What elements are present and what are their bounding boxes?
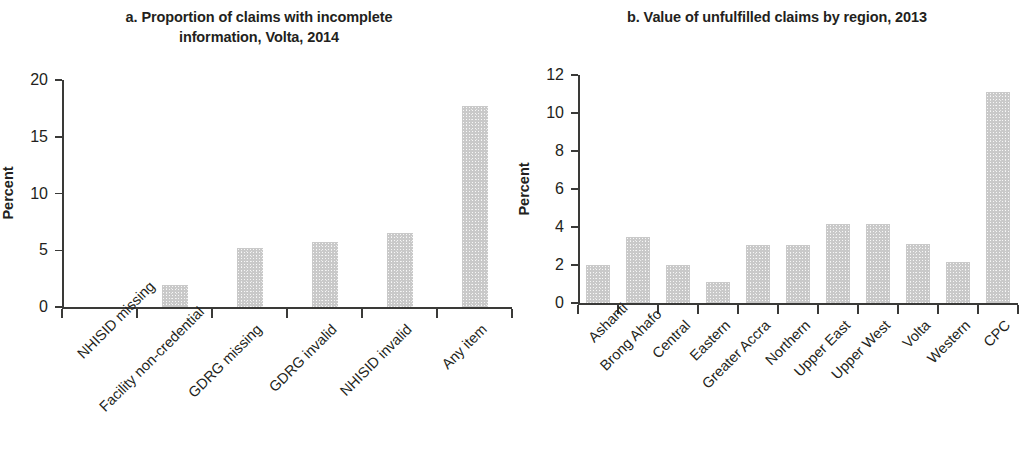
bar-upper-east [826, 224, 850, 303]
bar-upper-west [866, 224, 890, 303]
panel-b-x-tick [817, 305, 819, 314]
panel-b-y-tick-label: 12 [524, 66, 564, 84]
bar-nhisid-invalid [387, 233, 413, 307]
bar-brong-ahafo [626, 237, 650, 304]
bar-central [666, 265, 690, 303]
panel-b-y-tick [571, 112, 578, 114]
bar-gdrg-invalid [312, 242, 338, 307]
panel-a-x-tick [511, 309, 513, 318]
panel-b-y-tick [571, 74, 578, 76]
panel-a-x-tick [286, 309, 288, 318]
bar-gdrg-missing [237, 248, 263, 307]
x-tick-label-nhisid-missing: NHISID missing [74, 321, 115, 362]
panel-b-title: b. Value of unfulfilled claims by region… [518, 8, 1036, 28]
panel-b-x-tick [977, 305, 979, 314]
panel-b-y-tick-label: 4 [524, 218, 564, 236]
panel-a-title: a. Proportion of claims with incomplete … [0, 8, 518, 47]
chart-panel-b: b. Value of unfulfilled claims by region… [518, 0, 1036, 456]
panel-b-x-tick [897, 305, 899, 314]
panel-a-y-axis-line [62, 80, 64, 307]
panel-a-y-tick [55, 79, 62, 81]
panel-a-y-axis-title: Percent [0, 166, 16, 219]
bar-northern [786, 245, 810, 303]
panel-a-y-tick-label: 20 [8, 71, 48, 89]
x-tick-label-gdrg-missing: GDRG missing [118, 321, 265, 456]
panel-a-title-line1: a. Proportion of claims with incomplete [0, 8, 518, 28]
panel-b-y-tick-label: 8 [524, 142, 564, 160]
panel-b-y-tick [571, 150, 578, 152]
panel-b-x-tick [1017, 305, 1019, 314]
panel-b-x-tick [697, 305, 699, 314]
bar-greater-accra [746, 245, 770, 303]
panel-b-y-tick-label: 2 [524, 256, 564, 274]
panel-a-x-tick [211, 309, 213, 318]
bar-western [946, 262, 970, 303]
panel-a-y-tick-label: 0 [8, 298, 48, 316]
panel-b-y-tick [571, 188, 578, 190]
panel-b-title-line1: b. Value of unfulfilled claims by region… [518, 8, 1036, 28]
panel-b-x-tick [937, 305, 939, 314]
panel-a-x-tick [436, 309, 438, 318]
panel-b-y-axis-line [578, 75, 580, 303]
x-tick-label-ashanti: Ashanti [585, 317, 613, 345]
bar-any-item [462, 106, 488, 307]
panel-a-x-tick [61, 309, 63, 318]
panel-a-plot-area: 05101520NHISID missingFacility non-crede… [62, 80, 512, 307]
panel-a-y-tick [55, 193, 62, 195]
panel-a-y-tick-label: 5 [8, 241, 48, 259]
bar-eastern [706, 282, 730, 303]
bar-volta [906, 244, 930, 303]
panel-b-x-tick [577, 305, 579, 314]
panel-b-y-tick-label: 0 [524, 294, 564, 312]
panel-b-y-tick [571, 226, 578, 228]
panel-a-y-tick [55, 250, 62, 252]
bar-facility-non-credential [162, 285, 188, 307]
panel-b-x-tick [857, 305, 859, 314]
figure-container: a. Proportion of claims with incomplete … [0, 0, 1036, 456]
panel-b-y-tick-label: 10 [524, 104, 564, 122]
panel-b-x-tick [737, 305, 739, 314]
panel-a-title-line2: information, Volta, 2014 [0, 28, 518, 48]
panel-a-y-tick-label: 15 [8, 128, 48, 146]
panel-b-y-tick [571, 302, 578, 304]
bar-cpc [986, 92, 1010, 303]
panel-b-y-axis-title: Percent [516, 162, 532, 215]
panel-b-x-axis-line [578, 303, 1018, 305]
panel-b-plot-area: 024681012AshantiBrong AhafoCentralEaster… [578, 75, 1018, 303]
panel-a-y-tick [55, 306, 62, 308]
panel-b-x-tick [777, 305, 779, 314]
panel-b-y-tick [571, 264, 578, 266]
chart-panel-a: a. Proportion of claims with incomplete … [0, 0, 518, 456]
panel-a-y-tick [55, 136, 62, 138]
panel-a-x-tick [361, 309, 363, 318]
bar-ashanti [586, 265, 610, 303]
